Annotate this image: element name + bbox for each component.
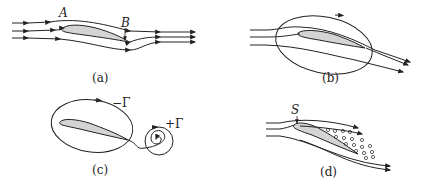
- contour-arrow-c: [94, 100, 101, 101]
- label-b-point: B: [120, 16, 130, 30]
- panel-b: (b): [250, 7, 410, 85]
- starting-vortex-spiral: [128, 131, 165, 149]
- airfoil-b: [298, 30, 365, 48]
- caption-a: (a): [92, 71, 109, 85]
- panel-c: −Γ +Γ (c): [48, 95, 184, 177]
- label-positive-circulation: +Γ: [165, 117, 183, 131]
- airfoil-a: [62, 25, 129, 42]
- airfoil-flow-diagram: A B (a) (b) −Γ +Γ (c) S: [0, 0, 422, 185]
- caption-d: (d): [320, 165, 337, 179]
- caption-b: (b): [322, 71, 339, 85]
- label-a-point: A: [58, 6, 68, 20]
- label-negative-circulation: −Γ: [112, 96, 130, 110]
- label-separation-point: S: [291, 103, 299, 117]
- panel-a: A B (a): [12, 6, 195, 85]
- vortex-arrow-c: [152, 127, 157, 128]
- panel-d: S (d): [266, 103, 390, 179]
- contour-arrow-b: [335, 15, 343, 16]
- caption-c: (c): [92, 163, 108, 177]
- streamline-a-3: [12, 38, 195, 50]
- diagram-canvas: A B (a) (b) −Γ +Γ (c) S: [0, 0, 422, 185]
- airfoil-c: [60, 119, 128, 140]
- streamline-b-3: [250, 45, 403, 72]
- vortex-contour-c: [145, 127, 173, 155]
